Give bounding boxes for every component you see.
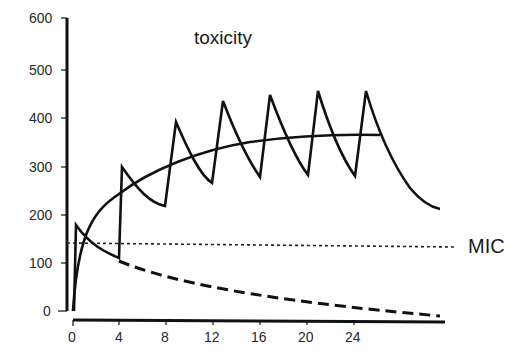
y-tick-label: 400 <box>29 110 53 126</box>
mic-line <box>67 243 454 247</box>
y-tick-label: 0 <box>43 303 51 319</box>
y-tick-label: 600 <box>29 10 53 26</box>
x-tick-label: 20 <box>298 329 314 345</box>
x-tick-label: 16 <box>251 329 267 345</box>
mic-label: MIC <box>468 235 505 257</box>
x-axis: 0 4 8 12 16 20 24 <box>68 320 445 345</box>
y-tick-label: 100 <box>29 255 53 271</box>
x-tick-label: 0 <box>68 329 76 345</box>
single-dose-decay-line <box>119 261 440 316</box>
y-tick-label: 200 <box>29 207 53 223</box>
x-tick-label: 8 <box>161 329 169 345</box>
x-tick-label: 4 <box>115 329 123 345</box>
y-tick-label: 500 <box>29 62 53 78</box>
chart-title: toxicity <box>194 27 253 48</box>
x-tick-label: 24 <box>345 329 361 345</box>
y-tick-label: 300 <box>29 159 53 175</box>
repeated-dose-curve <box>74 91 440 311</box>
pharmacokinetic-chart: toxicity 600 500 400 300 200 100 0 0 4 8… <box>0 0 528 360</box>
x-tick-label: 12 <box>204 329 220 345</box>
y-axis: 600 500 400 300 200 100 0 <box>29 10 67 319</box>
